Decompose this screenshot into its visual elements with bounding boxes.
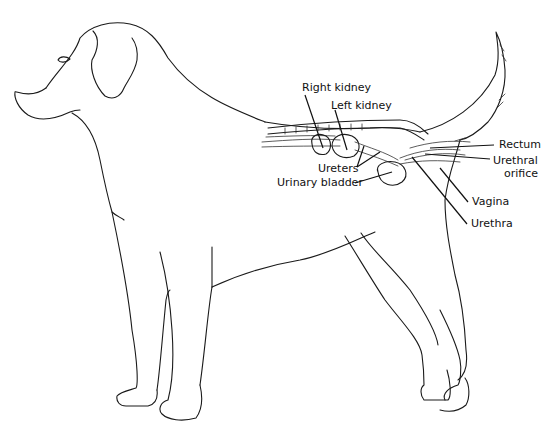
label-urinary-bladder: Urinary bladder [277, 177, 363, 189]
label-ureters: Ureters [318, 163, 358, 175]
label-right-kidney: Right kidney [302, 82, 371, 94]
label-left-kidney: Left kidney [331, 100, 392, 112]
urinary-bladder-shape [377, 162, 406, 186]
dog-anatomy-diagram [0, 0, 548, 431]
right-kidney-shape [312, 134, 331, 154]
label-urethra: Urethra [471, 218, 513, 230]
label-vagina: Vagina [472, 196, 509, 208]
label-urethral-orifice-2: orifice [504, 168, 538, 180]
dog-outline [15, 23, 506, 420]
label-urethral-orifice-1: Urethral [493, 155, 538, 167]
leader-lines [305, 95, 494, 224]
label-rectum: Rectum [499, 139, 541, 151]
